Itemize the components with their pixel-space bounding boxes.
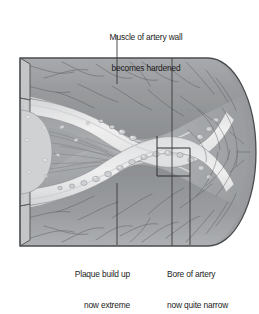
cut-face-lower-slab xyxy=(20,204,30,246)
annotation-plaque-line1: Plaque build up xyxy=(50,269,130,279)
annotation-bore-of-artery: Bore of artery now quite narrow xyxy=(167,248,257,314)
annotation-plaque-line2: now extreme xyxy=(50,300,130,310)
annotation-muscle-of-artery-wall: Muscle of artery wall becomes hardened xyxy=(96,11,196,94)
annotation-muscle-line1: Muscle of artery wall xyxy=(96,32,196,42)
annotation-plaque-build-up: Plaque build up now extreme xyxy=(50,248,130,314)
cut-face-upper-slab xyxy=(20,58,30,100)
annotation-muscle-line2: becomes hardened xyxy=(96,63,196,73)
annotation-bore-line2: now quite narrow xyxy=(167,300,257,310)
annotation-bore-line1: Bore of artery xyxy=(167,269,257,279)
